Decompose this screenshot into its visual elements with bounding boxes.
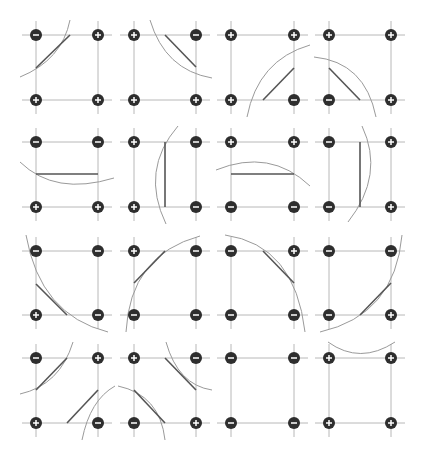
isoline-segment [36, 358, 67, 390]
minus-node-icon [190, 201, 202, 213]
contour-arc [20, 20, 70, 77]
contour-arc [150, 20, 212, 78]
minus-node-icon [323, 309, 335, 321]
minus-node-icon [30, 245, 42, 257]
plus-node-icon [385, 136, 397, 148]
cell-r0-c1 [120, 20, 212, 114]
plus-node-icon [225, 136, 237, 148]
contour-arc [314, 57, 376, 117]
minus-node-icon [288, 201, 300, 213]
cell-r0-c0 [20, 20, 112, 114]
minus-node-icon [323, 245, 335, 257]
plus-node-icon [288, 29, 300, 41]
cell-r2-c3 [315, 235, 405, 332]
plus-node-icon [30, 94, 42, 106]
marching-squares-diagram [0, 0, 426, 456]
isoline-segment [36, 284, 67, 315]
minus-node-icon [190, 136, 202, 148]
cell-r1-c1 [120, 126, 210, 224]
contour-arc [20, 162, 114, 184]
cell-r3-c2 [217, 344, 308, 437]
plus-node-icon [128, 352, 140, 364]
plus-node-icon [225, 94, 237, 106]
plus-node-icon [92, 94, 104, 106]
contour-arc [20, 342, 73, 394]
plus-node-icon [288, 245, 300, 257]
plus-node-icon [190, 417, 202, 429]
minus-node-icon [190, 245, 202, 257]
plus-node-icon [128, 245, 140, 257]
cell-r0-c3 [314, 21, 405, 117]
plus-node-icon [385, 29, 397, 41]
plus-node-icon [30, 417, 42, 429]
isoline-segment [134, 251, 165, 283]
minus-node-icon [288, 309, 300, 321]
minus-node-icon [225, 417, 237, 429]
isoline-segment [329, 68, 360, 100]
minus-node-icon [323, 136, 335, 148]
plus-node-icon [385, 309, 397, 321]
isoline-segment [165, 358, 196, 390]
plus-node-icon [30, 201, 42, 213]
contour-arc [118, 386, 165, 440]
minus-node-icon [225, 201, 237, 213]
plus-node-icon [190, 94, 202, 106]
isoline-segment [360, 283, 391, 315]
contour-arc [328, 342, 395, 354]
plus-node-icon [225, 29, 237, 41]
plus-node-icon [92, 29, 104, 41]
minus-node-icon [288, 94, 300, 106]
plus-node-icon [128, 94, 140, 106]
isoline-segment [165, 35, 196, 67]
minus-node-icon [92, 309, 104, 321]
plus-node-icon [30, 309, 42, 321]
cell-r3-c3 [315, 342, 405, 437]
plus-node-icon [385, 94, 397, 106]
minus-node-icon [225, 245, 237, 257]
minus-node-icon [288, 352, 300, 364]
plus-node-icon [92, 201, 104, 213]
cell-r1-c3 [315, 126, 405, 222]
cell-r1-c0 [20, 128, 114, 221]
cell-r3-c1 [118, 342, 212, 440]
minus-node-icon [323, 201, 335, 213]
plus-node-icon [92, 352, 104, 364]
minus-node-icon [92, 417, 104, 429]
plus-node-icon [323, 417, 335, 429]
cell-r1-c2 [216, 128, 310, 221]
plus-node-icon [128, 201, 140, 213]
plus-node-icon [385, 352, 397, 364]
minus-node-icon [30, 136, 42, 148]
minus-node-icon [190, 29, 202, 41]
minus-node-icon [30, 29, 42, 41]
plus-node-icon [385, 417, 397, 429]
isoline-segment [36, 35, 70, 68]
cell-r2-c1 [120, 236, 210, 332]
contour-arc [155, 126, 178, 224]
minus-node-icon [323, 94, 335, 106]
cell-r0-c2 [217, 21, 310, 117]
isoline-segment [67, 390, 98, 423]
minus-node-icon [225, 309, 237, 321]
cell-r2-c2 [217, 235, 308, 332]
minus-node-icon [385, 245, 397, 257]
minus-node-icon [128, 417, 140, 429]
cell-r3-c0 [20, 342, 115, 440]
minus-node-icon [225, 352, 237, 364]
isoline-segment [134, 390, 165, 423]
minus-node-icon [190, 309, 202, 321]
minus-node-icon [92, 136, 104, 148]
minus-node-icon [128, 309, 140, 321]
diagram-canvas [0, 0, 426, 456]
cell-r2-c0 [22, 235, 112, 332]
isoline-segment [263, 251, 294, 283]
minus-node-icon [92, 245, 104, 257]
plus-node-icon [385, 201, 397, 213]
plus-node-icon [323, 29, 335, 41]
plus-node-icon [288, 136, 300, 148]
plus-node-icon [128, 29, 140, 41]
minus-node-icon [288, 417, 300, 429]
minus-node-icon [30, 352, 42, 364]
contour-arc [247, 45, 310, 117]
plus-node-icon [128, 136, 140, 148]
